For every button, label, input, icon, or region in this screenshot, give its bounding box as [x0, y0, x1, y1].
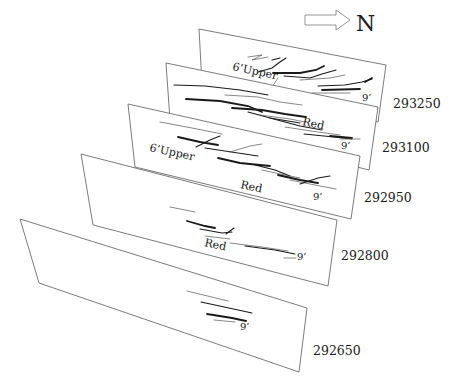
north-arrow-icon: [305, 10, 350, 30]
section-number-label: 292800: [341, 248, 389, 263]
horizon-label: 9’: [341, 140, 351, 151]
section-number-label: 293250: [393, 96, 441, 111]
section-number-label: 292650: [313, 343, 361, 358]
horizon-label: 9’: [362, 92, 372, 103]
horizon-label: 9’: [313, 191, 323, 202]
fence-diagram: N 6’Upper9’293250Red9’2931006’UpperRed9’…: [0, 0, 452, 390]
section-number-label: 293100: [382, 140, 430, 155]
north-label: N: [356, 11, 375, 36]
horizon-label: 9’: [240, 321, 250, 332]
section-number-label: 292950: [364, 190, 412, 205]
horizon-label: 9’: [297, 251, 307, 262]
seam-trace: [322, 89, 360, 90]
